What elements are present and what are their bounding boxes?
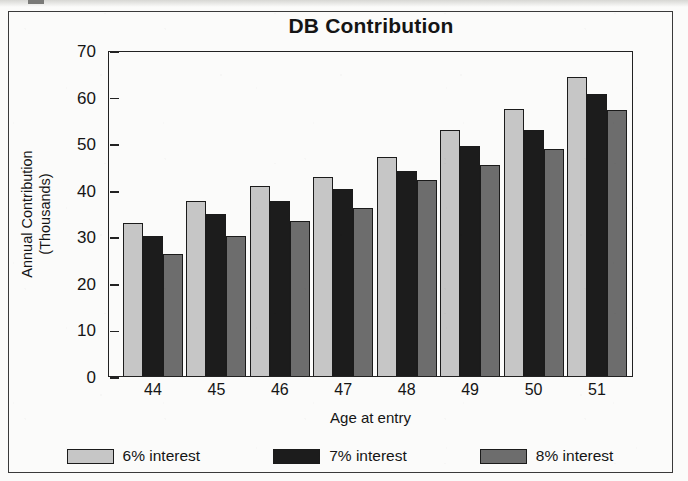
y-axis-tick-mark — [110, 377, 119, 379]
y-axis-tick: 70 — [77, 42, 109, 62]
bar-groups — [109, 52, 632, 376]
x-axis-tick-label: 51 — [566, 381, 628, 399]
bar-group — [313, 52, 373, 376]
x-axis-label: Age at entry — [108, 409, 633, 426]
bar[interactable] — [250, 186, 270, 376]
bar[interactable] — [544, 149, 564, 376]
y-axis-tick-label: 60 — [77, 89, 96, 109]
y-axis-tick-label: 50 — [77, 135, 96, 155]
y-axis-tick: 20 — [77, 275, 109, 295]
plot-area: 010203040506070 — [108, 51, 633, 377]
y-axis-tick-label: 10 — [77, 321, 96, 341]
x-axis-tick-label: 44 — [122, 381, 184, 399]
bar-group — [377, 52, 437, 376]
legend-swatch — [67, 449, 114, 464]
bar[interactable] — [290, 221, 310, 376]
bar[interactable] — [440, 130, 460, 376]
bar[interactable] — [186, 201, 206, 376]
x-axis-tick-label: 48 — [376, 381, 438, 399]
x-axis-tick-label: 50 — [503, 381, 565, 399]
bar[interactable] — [397, 171, 417, 376]
y-axis-tick-label: 40 — [77, 182, 96, 202]
bar[interactable] — [480, 165, 500, 376]
bar[interactable] — [353, 208, 373, 376]
bar[interactable] — [607, 110, 627, 376]
bar[interactable] — [377, 157, 397, 376]
y-axis-tick: 50 — [77, 135, 109, 155]
x-axis-tick-label: 47 — [312, 381, 374, 399]
bar-group — [123, 52, 183, 376]
x-axis-tick-label: 45 — [185, 381, 247, 399]
bar-group — [504, 52, 564, 376]
bar[interactable] — [524, 130, 544, 376]
scan-edge-artifact — [0, 0, 688, 7]
x-axis-tick-label: 46 — [249, 381, 311, 399]
legend-swatch — [273, 449, 320, 464]
bar-group — [186, 52, 246, 376]
bar[interactable] — [123, 223, 143, 376]
bar[interactable] — [587, 94, 607, 376]
legend-item[interactable]: 7% interest — [273, 447, 407, 465]
x-axis-tick-label: 49 — [439, 381, 501, 399]
legend-label: 8% interest — [536, 447, 614, 465]
legend-swatch — [480, 449, 527, 464]
bar-group — [250, 52, 310, 376]
scan-mark — [28, 0, 44, 4]
y-axis-label-line1: Annual Contribution — [18, 150, 36, 277]
bar-group — [567, 52, 627, 376]
bar[interactable] — [226, 236, 246, 376]
bar[interactable] — [206, 214, 226, 376]
bar[interactable] — [417, 180, 437, 376]
bar[interactable] — [460, 146, 480, 376]
chart-title: DB Contribution — [108, 14, 634, 38]
y-axis-tick: 30 — [77, 228, 109, 248]
chart-legend: 6% interest7% interest8% interest — [30, 447, 650, 465]
legend-item[interactable]: 8% interest — [480, 447, 614, 465]
bar-group — [440, 52, 500, 376]
legend-label: 6% interest — [123, 447, 201, 465]
y-axis-tick-label: 70 — [77, 42, 96, 62]
y-axis-tick: 10 — [77, 321, 109, 341]
bar[interactable] — [333, 189, 353, 376]
chart-figure: DB Contribution Annual Contribution (Tho… — [0, 0, 688, 481]
legend-label: 7% interest — [329, 447, 407, 465]
bar[interactable] — [567, 77, 587, 376]
bar[interactable] — [504, 109, 524, 376]
legend-item[interactable]: 6% interest — [67, 447, 201, 465]
bar[interactable] — [163, 254, 183, 376]
y-axis-tick-label: 20 — [77, 275, 96, 295]
bar[interactable] — [270, 201, 290, 376]
y-axis-tick-label: 0 — [87, 368, 96, 388]
bar[interactable] — [313, 177, 333, 376]
bar[interactable] — [143, 236, 163, 376]
x-axis-ticks: 4445464748495051 — [108, 381, 633, 399]
y-axis-tick: 0 — [87, 368, 109, 388]
y-axis-tick: 40 — [77, 182, 109, 202]
y-axis-label: Annual Contribution (Thousands) — [14, 51, 58, 377]
y-axis-tick: 60 — [77, 89, 109, 109]
y-axis-label-line2: (Thousands) — [36, 150, 54, 277]
y-axis-tick-label: 30 — [77, 228, 96, 248]
